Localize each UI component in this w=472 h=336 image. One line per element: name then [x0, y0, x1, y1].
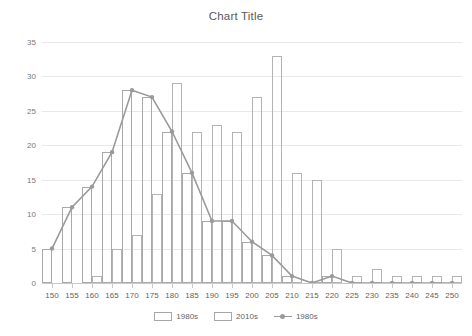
chart-title: Chart Title [0, 10, 472, 22]
chart-container: Chart Title 05101520253035 1501551601651… [0, 0, 472, 336]
legend-item-1980s-bar[interactable]: 1980s [154, 312, 198, 321]
x-axis-tick-label: 150 [45, 291, 58, 300]
x-axis-tick-label: 225 [345, 291, 358, 300]
x-axis-tick-mark [272, 283, 273, 288]
line-marker-150 [50, 246, 54, 250]
x-axis-tick-mark [152, 283, 153, 288]
x-axis-tick-mark [332, 283, 333, 288]
x-axis-tick-mark [392, 283, 393, 288]
x-axis-tick-mark [172, 283, 173, 288]
legend-label: 1980s [296, 312, 318, 321]
legend-swatch-icon [154, 312, 172, 321]
x-axis-tick-mark [92, 283, 93, 288]
y-axis-tick-label: 25 [27, 106, 36, 115]
legend-item-1980s-line[interactable]: 1980s [274, 312, 318, 321]
x-axis-tick-mark [352, 283, 353, 288]
line-marker-210 [290, 274, 294, 278]
x-axis-tick-mark [132, 283, 133, 288]
y-axis-tick-label: 5 [32, 244, 36, 253]
legend-line-marker-icon [274, 313, 292, 320]
x-axis-tick-mark [372, 283, 373, 288]
x-axis-tick-mark [232, 283, 233, 288]
line-marker-180 [170, 129, 174, 133]
x-axis-ticks: 1501551601651701751801851901952002052102… [42, 283, 462, 313]
line-marker-205 [270, 253, 274, 257]
x-axis-tick-label: 210 [285, 291, 298, 300]
line-marker-160 [90, 184, 94, 188]
x-axis-tick-mark [252, 283, 253, 288]
x-axis-tick-mark [432, 283, 433, 288]
line-marker-195 [230, 219, 234, 223]
x-axis-tick-label: 195 [225, 291, 238, 300]
x-axis-tick-label: 165 [105, 291, 118, 300]
x-axis-tick-label: 200 [245, 291, 258, 300]
x-axis-tick-label: 215 [305, 291, 318, 300]
x-axis-tick-label: 245 [425, 291, 438, 300]
y-axis-tick-label: 35 [27, 38, 36, 47]
line-marker-170 [130, 88, 134, 92]
line-marker-175 [150, 95, 154, 99]
x-axis-tick-mark [452, 283, 453, 288]
legend-item-2010s-bar[interactable]: 2010s [214, 312, 258, 321]
x-axis-tick-label: 235 [385, 291, 398, 300]
x-axis-tick-mark [192, 283, 193, 288]
x-axis-tick-mark [212, 283, 213, 288]
x-axis-tick-mark [312, 283, 313, 288]
x-axis-tick-label: 185 [185, 291, 198, 300]
line-marker-165 [110, 150, 114, 154]
chart-legend: 1980s2010s1980s [0, 312, 472, 321]
x-axis-tick-label: 230 [365, 291, 378, 300]
line-marker-190 [210, 219, 214, 223]
x-axis-tick-label: 240 [405, 291, 418, 300]
line-marker-155 [70, 205, 74, 209]
line-marker-220 [330, 274, 334, 278]
x-axis-tick-label: 175 [145, 291, 158, 300]
plot-area: 05101520253035 [42, 42, 462, 283]
x-axis-tick-label: 170 [125, 291, 138, 300]
y-axis-tick-label: 20 [27, 141, 36, 150]
x-axis-tick-label: 180 [165, 291, 178, 300]
x-axis-tick-label: 220 [325, 291, 338, 300]
x-axis-tick-label: 155 [65, 291, 78, 300]
line-marker-185 [190, 171, 194, 175]
x-axis-tick-label: 190 [205, 291, 218, 300]
legend-label: 1980s [176, 312, 198, 321]
y-axis-tick-label: 10 [27, 210, 36, 219]
x-axis-tick-label: 160 [85, 291, 98, 300]
x-axis-tick-mark [292, 283, 293, 288]
x-axis-tick-mark [72, 283, 73, 288]
legend-label: 2010s [236, 312, 258, 321]
x-axis-tick-label: 250 [445, 291, 458, 300]
x-axis-tick-mark [112, 283, 113, 288]
x-axis-tick-mark [52, 283, 53, 288]
y-axis-tick-label: 0 [32, 279, 36, 288]
line-marker-200 [250, 239, 254, 243]
line-series-layer [42, 42, 462, 283]
y-axis-tick-label: 15 [27, 175, 36, 184]
y-axis-tick-label: 30 [27, 72, 36, 81]
x-axis-tick-label: 205 [265, 291, 278, 300]
legend-swatch-icon [214, 312, 232, 321]
line-series-path [52, 90, 452, 283]
x-axis-tick-mark [412, 283, 413, 288]
